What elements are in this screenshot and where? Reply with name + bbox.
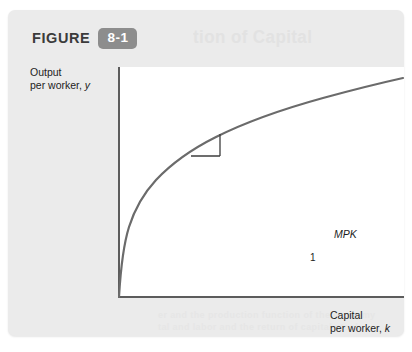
mpk-run-label: 1 (310, 252, 316, 263)
y-axis-label: Output per worker, y (30, 66, 90, 92)
production-function-curve (119, 78, 403, 297)
y-axis-label-line1: Output (30, 66, 62, 78)
mpk-slope-label: MPK (334, 228, 357, 240)
figure-number-badge: 8-1 (98, 28, 137, 49)
plot-panel: Output, f(k) MPK 1 (118, 67, 404, 298)
figure-card: tion of Capital for Goods er and the pro… (8, 10, 404, 336)
x-axis-label: Capital per worker, k (330, 309, 390, 335)
y-axis-variable: y (85, 79, 90, 91)
x-axis-label-line2: per worker, (330, 322, 385, 334)
ghost-title-text: tion of Capital (193, 28, 312, 49)
y-axis-label-line2: per worker, (30, 79, 85, 91)
x-axis-variable: k (385, 322, 390, 334)
figure-word-label: FIGURE (32, 30, 90, 46)
x-axis-label-line1: Capital (330, 309, 363, 321)
figure-header: FIGURE 8-1 (32, 28, 137, 49)
production-function-chart (118, 67, 404, 298)
